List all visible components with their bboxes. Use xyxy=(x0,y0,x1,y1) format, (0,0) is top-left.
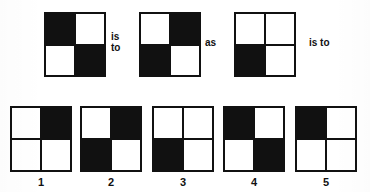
option-1-label: 1 xyxy=(10,176,72,188)
option-2-label: 2 xyxy=(80,176,142,188)
cell-bottom-left xyxy=(154,140,182,170)
cell-top-left xyxy=(297,108,325,138)
cell-bottom-right xyxy=(112,140,140,170)
option-1-figure[interactable] xyxy=(10,106,72,172)
analogy-term-b-figure xyxy=(139,12,201,77)
option-4-figure[interactable] xyxy=(223,106,285,172)
option-3-figure[interactable] xyxy=(152,106,214,172)
cell-bottom-right xyxy=(255,140,283,170)
cell-top-right xyxy=(266,14,294,44)
cell-bottom-right xyxy=(327,140,355,170)
cell-top-right xyxy=(42,108,70,138)
cell-top-right xyxy=(184,108,212,138)
cell-bottom-left xyxy=(236,46,264,76)
cell-bottom-left xyxy=(12,140,40,170)
cell-top-right xyxy=(76,14,104,44)
cell-bottom-right xyxy=(184,140,212,170)
cell-top-left xyxy=(236,14,264,44)
cell-bottom-right xyxy=(171,46,199,76)
connector-as: as xyxy=(205,37,216,48)
option-4-label: 4 xyxy=(223,176,285,188)
cell-top-right xyxy=(171,14,199,44)
analogy-term-a-figure xyxy=(44,12,106,77)
option-5-figure[interactable] xyxy=(295,106,357,172)
cell-top-left xyxy=(46,14,74,44)
option-2-figure[interactable] xyxy=(80,106,142,172)
cell-bottom-left xyxy=(225,140,253,170)
cell-top-right xyxy=(327,108,355,138)
cell-bottom-right xyxy=(266,46,294,76)
connector-is-to-second: is to xyxy=(309,37,330,48)
cell-bottom-left xyxy=(297,140,325,170)
cell-bottom-left xyxy=(46,46,74,76)
option-5-label: 5 xyxy=(295,176,357,188)
analogy-term-c-figure xyxy=(234,12,296,77)
cell-top-left xyxy=(154,108,182,138)
cell-bottom-right xyxy=(42,140,70,170)
option-3-label: 3 xyxy=(152,176,214,188)
cell-top-left xyxy=(12,108,40,138)
cell-top-right xyxy=(112,108,140,138)
cell-bottom-left xyxy=(82,140,110,170)
cell-top-left xyxy=(225,108,253,138)
cell-bottom-left xyxy=(141,46,169,76)
cell-top-left xyxy=(82,108,110,138)
connector-is-to-first: is to xyxy=(111,31,120,53)
cell-top-left xyxy=(141,14,169,44)
cell-top-right xyxy=(255,108,283,138)
cell-bottom-right xyxy=(76,46,104,76)
